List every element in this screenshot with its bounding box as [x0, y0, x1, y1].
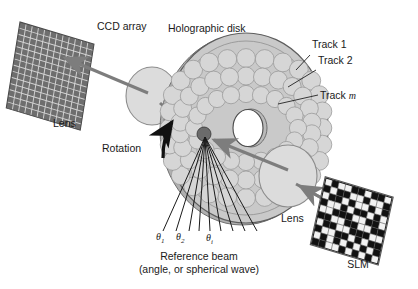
lens-left-label: Lens [53, 117, 76, 129]
theta-2-subscript: 2 [181, 237, 185, 245]
holographic-disk-diagram: CCD array Lens [0, 0, 418, 289]
theta-i-subscript: i [211, 238, 213, 246]
disk-center-hole [233, 110, 263, 147]
track-1-label: Track 1 [312, 38, 347, 50]
theta-1-subscript: 1 [161, 237, 165, 245]
rotation-label: Rotation [102, 142, 141, 154]
lens-right [259, 145, 317, 207]
track-m-italic: m [349, 90, 356, 101]
track-m-prefix: Track [320, 89, 349, 101]
reference-beam-line1: Reference beam [160, 250, 238, 262]
track-2-label: Track 2 [318, 54, 353, 66]
slm-label: SLM [347, 258, 369, 270]
holographic-disk-label: Holographic disk [168, 22, 246, 34]
lens-right-label: Lens [281, 212, 304, 224]
ccd-array-label: CCD array [97, 20, 147, 32]
reference-beam-line2: (angle, or spherical wave) [139, 263, 259, 275]
track-m-label: Track m [320, 89, 356, 101]
